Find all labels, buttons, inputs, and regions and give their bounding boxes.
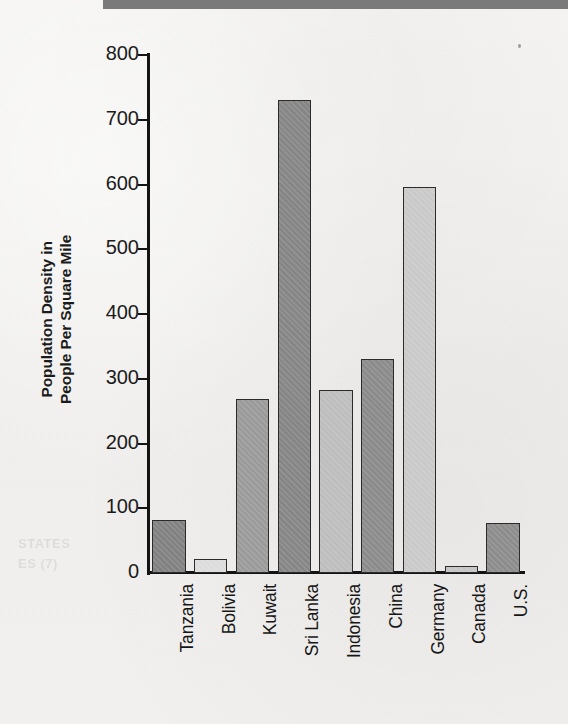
y-tick-200 <box>138 443 148 445</box>
x-label-bolivia: Bolivia <box>219 584 240 634</box>
x-label-kuwait: Kuwait <box>260 584 281 635</box>
bar-sri-lanka <box>278 100 311 573</box>
y-axis-title: Population Density in People Per Square … <box>37 139 76 499</box>
x-label-u-s: U.S. <box>511 584 532 617</box>
y-tick-label-800: 800 <box>73 42 139 65</box>
bar-tanzania <box>152 520 185 573</box>
bar-u-s <box>486 523 519 573</box>
x-label-indonesia: Indonesia <box>344 584 365 658</box>
x-label-germany: Germany <box>428 584 449 655</box>
bar-canada <box>445 566 478 573</box>
x-label-sri-lanka: Sri Lanka <box>302 584 323 656</box>
y-tick-label-400: 400 <box>73 301 139 324</box>
y-tick-100 <box>138 507 148 509</box>
bar-chart: Population Density in People Per Square … <box>0 0 568 724</box>
bar-bolivia <box>194 559 227 573</box>
x-label-tanzania: Tanzania <box>177 584 198 652</box>
y-tick-label-300: 300 <box>73 366 139 389</box>
y-tick-800 <box>138 54 148 56</box>
y-tick-300 <box>138 378 148 380</box>
bar-kuwait <box>236 399 269 573</box>
y-tick-600 <box>138 184 148 186</box>
y-tick-500 <box>138 248 148 250</box>
bar-china <box>361 359 394 573</box>
plot-area <box>148 55 524 573</box>
y-tick-400 <box>138 313 148 315</box>
y-tick-label-100: 100 <box>73 495 139 518</box>
y-tick-label-500: 500 <box>73 236 139 259</box>
y-tick-700 <box>138 119 148 121</box>
y-tick-label-0: 0 <box>73 560 139 583</box>
y-axis-title-line-1: Population Density in <box>37 139 56 499</box>
y-tick-label-700: 700 <box>73 107 139 130</box>
bar-indonesia <box>319 390 352 573</box>
y-tick-label-200: 200 <box>73 431 139 454</box>
y-tick-label-600: 600 <box>73 172 139 195</box>
x-label-canada: Canada <box>469 584 490 644</box>
x-label-china: China <box>386 584 407 629</box>
bar-germany <box>403 187 436 573</box>
